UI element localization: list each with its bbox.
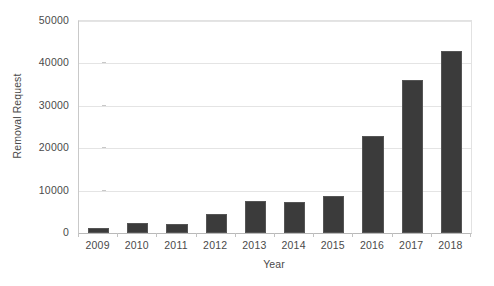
y-tick-label: 0 — [63, 226, 69, 238]
y-tick-label: 20000 — [39, 141, 69, 153]
x-tick-label: 2014 — [282, 239, 306, 251]
x-tick-mark — [235, 233, 236, 237]
x-tick-mark — [470, 233, 471, 237]
x-axis-title: Year — [78, 258, 470, 270]
y-tick-label: 10000 — [39, 184, 69, 196]
x-tick-label: 2011 — [164, 239, 187, 251]
y-tick-label: 40000 — [39, 56, 69, 68]
x-tick-mark — [313, 233, 314, 237]
x-tick-mark — [274, 233, 275, 237]
bar — [284, 202, 305, 233]
bar — [402, 80, 423, 233]
bar — [245, 201, 266, 233]
x-tick-label: 2015 — [321, 239, 345, 251]
bar — [127, 223, 148, 233]
bar — [323, 196, 344, 233]
x-tick-label: 2013 — [242, 239, 266, 251]
x-tick-mark — [431, 233, 432, 237]
x-tick-mark — [392, 233, 393, 237]
x-axis-ticks: 2009201020112012201320142015201620172018 — [78, 233, 471, 257]
x-axis-title-label: Year — [263, 258, 285, 270]
x-tick-label: 2009 — [86, 239, 110, 251]
bar — [362, 136, 383, 233]
plot-area — [78, 20, 472, 234]
x-tick-label: 2017 — [399, 239, 423, 251]
x-tick-mark — [117, 233, 118, 237]
x-tick-label: 2010 — [125, 239, 149, 251]
bar — [441, 51, 462, 233]
y-tick-label: 30000 — [39, 99, 69, 111]
x-tick-mark — [78, 233, 79, 237]
y-tick-label: 50000 — [39, 14, 69, 26]
y-axis-title-label: Removal Request — [11, 74, 23, 159]
y-axis-tick-labels: 01000020000300004000050000 — [28, 0, 74, 250]
x-tick-label: 2018 — [438, 239, 462, 251]
bar — [206, 214, 227, 233]
bar-chart: Removal Request 010000200003000040000500… — [0, 0, 494, 286]
x-tick-label: 2016 — [360, 239, 384, 251]
x-tick-mark — [156, 233, 157, 237]
bars-group — [79, 21, 471, 233]
bar — [166, 224, 187, 233]
x-tick-mark — [352, 233, 353, 237]
x-tick-mark — [196, 233, 197, 237]
x-tick-label: 2012 — [203, 239, 227, 251]
